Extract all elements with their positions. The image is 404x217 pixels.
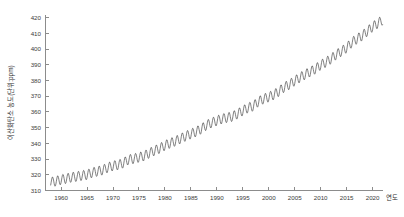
data-series-co2 (51, 17, 383, 186)
x-axis-title: 연도 (386, 194, 398, 201)
y-tick-label: 330 (31, 155, 42, 162)
x-axis: 1960196519701975198019851990199520002005… (46, 187, 384, 202)
y-tick-label: 320 (31, 171, 42, 178)
y-tick-label: 360 (31, 108, 42, 115)
y-tick-label: 410 (31, 30, 42, 37)
y-axis-title: 이산화탄소 농도(단위:ppm) (6, 65, 15, 139)
y-tick-label: 370 (31, 92, 42, 99)
y-tick-label: 390 (31, 61, 42, 68)
y-tick-label: 400 (31, 45, 42, 52)
x-tick-label: 2015 (340, 194, 354, 201)
x-tick-label: 2010 (314, 194, 328, 201)
x-tick-label: 1960 (54, 194, 68, 201)
y-tick-label: 310 (31, 187, 42, 194)
co2-concentration-chart: 310320330340350360370380390400410420 196… (0, 0, 404, 217)
x-tick-label: 2005 (288, 194, 302, 201)
y-tick-label: 420 (31, 14, 42, 21)
x-tick-label: 2000 (262, 194, 276, 201)
x-tick-label: 1965 (80, 194, 94, 201)
x-tick-label: 1980 (158, 194, 172, 201)
y-tick-label: 380 (31, 77, 42, 84)
x-tick-label: 1985 (184, 194, 198, 201)
x-tick-label: 1990 (210, 194, 224, 201)
y-axis: 310320330340350360370380390400410420 (31, 14, 49, 194)
y-tick-label: 340 (31, 140, 42, 147)
y-tick-label: 350 (31, 124, 42, 131)
co2-line-path (51, 17, 383, 186)
chart-canvas: 310320330340350360370380390400410420 196… (0, 0, 404, 217)
x-tick-label: 2020 (366, 194, 380, 201)
x-tick-label: 1975 (132, 194, 146, 201)
x-tick-label: 1970 (106, 194, 120, 201)
x-tick-label: 1995 (236, 194, 250, 201)
